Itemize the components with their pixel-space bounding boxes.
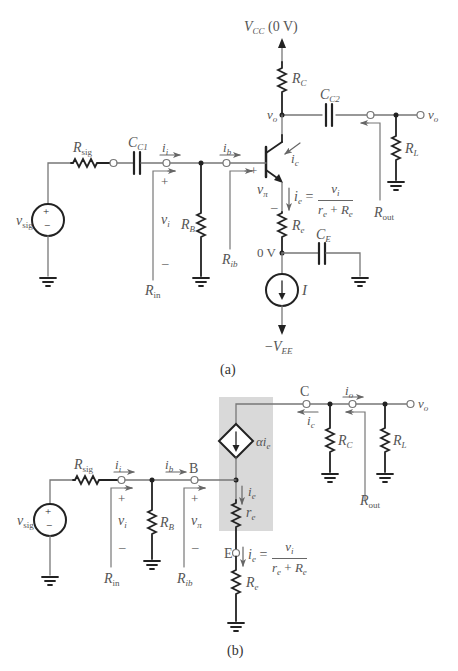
vo-output-label: vo bbox=[418, 397, 428, 413]
terminal-icon bbox=[349, 401, 356, 408]
ce-label: CE bbox=[316, 228, 331, 244]
zero-v-label: 0 V bbox=[257, 246, 276, 259]
rl-resistor-icon bbox=[381, 404, 389, 472]
terminal-icon bbox=[110, 160, 117, 167]
current-source-label: I bbox=[302, 283, 307, 298]
rout-indicator bbox=[347, 412, 365, 500]
ii-label: ii bbox=[115, 458, 121, 474]
re-resistor-icon bbox=[278, 212, 286, 252]
ground-icon bbox=[377, 474, 393, 482]
ground-icon bbox=[352, 278, 368, 286]
vcc-arrow-icon bbox=[278, 38, 286, 48]
rout-label: Rout bbox=[360, 494, 380, 510]
vpi-minus: – bbox=[192, 540, 199, 553]
vpi-plus: + bbox=[250, 164, 257, 177]
rc-label: RC bbox=[338, 434, 353, 450]
vee-arrow-icon bbox=[278, 325, 286, 335]
ground-icon bbox=[40, 278, 56, 286]
rb-resistor-icon bbox=[197, 163, 205, 276]
rc-resistor-icon bbox=[326, 404, 334, 472]
node-e-label: E bbox=[224, 547, 233, 561]
rsig-label: Rsig bbox=[73, 141, 92, 157]
ground-icon bbox=[322, 474, 338, 482]
node-e-terminal-icon bbox=[233, 550, 240, 557]
part-b-circuit bbox=[34, 397, 414, 631]
vi-minus: – bbox=[162, 256, 169, 269]
rib-indicator bbox=[230, 171, 252, 249]
ic-label: ic bbox=[291, 152, 299, 168]
vi-minus: – bbox=[119, 540, 126, 553]
vi-plus: + bbox=[118, 492, 125, 505]
rb-label: RB bbox=[160, 516, 174, 532]
bjt-transistor-icon bbox=[266, 135, 283, 183]
vo-output-label: vo bbox=[428, 108, 438, 124]
rc-resistor-icon bbox=[278, 62, 286, 115]
vi-label: vi bbox=[161, 213, 170, 229]
ie-small-label: ie bbox=[248, 485, 256, 501]
source-minus-sign: − bbox=[44, 220, 50, 231]
rib-label: Rib bbox=[177, 572, 193, 588]
ie-equation-fraction: vi re + Re bbox=[318, 182, 353, 220]
rout-label: Rout bbox=[374, 206, 394, 222]
rl-resistor-icon bbox=[392, 115, 400, 180]
vpi-label: vπ bbox=[191, 514, 202, 530]
ie-equation-lhs: ie = bbox=[294, 190, 313, 206]
node-b-label: B bbox=[189, 462, 198, 476]
vi-label: vi bbox=[118, 514, 127, 530]
vi-plus: + bbox=[161, 175, 168, 188]
dependent-source-label: αie bbox=[256, 435, 270, 451]
vpi-minus: – bbox=[271, 200, 278, 213]
vpi-label: vπ bbox=[257, 183, 268, 199]
ib-label: ib bbox=[223, 141, 231, 157]
re-label: Re bbox=[292, 219, 305, 235]
node-b-terminal-icon bbox=[191, 477, 198, 484]
re-label: Re bbox=[246, 576, 259, 592]
vo-output-terminal-icon bbox=[417, 112, 424, 119]
source-plus-sign: + bbox=[43, 206, 49, 217]
circuit-figure: VCC (0 V) RC CC2 vo vo RL Rout Rsig CC1 … bbox=[0, 0, 458, 671]
vsig-label: vsig bbox=[17, 514, 34, 530]
rsig-label: Rsig bbox=[74, 458, 93, 474]
vcc-label: VCC (0 V) bbox=[244, 20, 298, 36]
node-c-label: C bbox=[300, 385, 309, 399]
source-minus-sign: − bbox=[46, 520, 52, 531]
ground-icon bbox=[42, 577, 58, 585]
circuit-schematic bbox=[0, 0, 458, 671]
rl-label: RL bbox=[393, 434, 407, 450]
ground-icon bbox=[388, 182, 404, 190]
rsig-resistor-icon bbox=[73, 476, 118, 484]
ic-label: ic bbox=[307, 414, 315, 430]
vsig-label: vsig bbox=[16, 214, 33, 230]
ie-equation-fraction: vi re + Re bbox=[272, 540, 307, 578]
node-c-terminal-icon bbox=[303, 401, 310, 408]
cc2-label: CC2 bbox=[320, 88, 340, 104]
vo-node-label: vo bbox=[267, 108, 277, 124]
rc-label: RC bbox=[292, 72, 307, 88]
rin-label: Rin bbox=[145, 284, 161, 300]
cc1-label: CC1 bbox=[128, 136, 148, 152]
ground-icon bbox=[228, 623, 244, 631]
rin-label: Rin bbox=[104, 572, 120, 588]
rsig-resistor-icon bbox=[71, 159, 110, 167]
ib-label: ib bbox=[165, 458, 173, 474]
terminal-icon bbox=[163, 160, 170, 167]
rib-label: Rib bbox=[222, 253, 238, 269]
terminal-icon bbox=[118, 477, 125, 484]
re-small-label: re bbox=[246, 506, 255, 522]
ground-icon bbox=[193, 278, 209, 286]
io-label: io bbox=[345, 384, 353, 400]
rb-resistor-icon bbox=[148, 480, 156, 559]
vpi-plus: + bbox=[191, 492, 198, 505]
caption-a: (a) bbox=[220, 362, 236, 378]
terminal-icon bbox=[223, 160, 230, 167]
vee-label: −VEE bbox=[265, 340, 292, 356]
rout-indicator bbox=[362, 123, 380, 200]
rl-label: RL bbox=[405, 142, 419, 158]
ground-icon bbox=[144, 561, 160, 569]
ii-label: ii bbox=[162, 141, 168, 157]
terminal-icon bbox=[367, 112, 374, 119]
vo-output-terminal-icon bbox=[407, 401, 414, 408]
caption-b: (b) bbox=[227, 643, 243, 659]
ie-equation-lhs: ie = bbox=[248, 548, 267, 564]
source-plus-sign: + bbox=[45, 506, 51, 517]
